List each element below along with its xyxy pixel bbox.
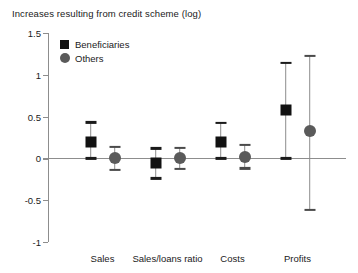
error-bar-cap xyxy=(239,144,250,146)
x-tick-label: Profits xyxy=(284,253,311,264)
y-tick-mark xyxy=(43,242,48,243)
error-bar-cap xyxy=(85,121,96,123)
marker-others[interactable] xyxy=(239,151,251,163)
x-tick-label: Sales/loans ratio xyxy=(132,253,202,264)
marker-others[interactable] xyxy=(174,152,186,164)
error-bar-cap xyxy=(304,54,315,56)
y-tick-mark xyxy=(43,200,48,201)
x-tick-label: Costs xyxy=(220,253,244,264)
error-bar-cap xyxy=(174,168,185,170)
error-bar-cap xyxy=(109,146,120,148)
error-bar-cap xyxy=(280,157,291,159)
error-bar-cap xyxy=(150,147,161,149)
y-tick-label: 0 xyxy=(36,153,41,164)
marker-beneficiaries[interactable] xyxy=(150,158,161,169)
y-tick-label: -1 xyxy=(33,237,41,248)
y-tick-mark xyxy=(43,117,48,118)
error-bar-cap xyxy=(215,122,226,124)
error-bar-cap xyxy=(304,209,315,211)
error-bar-cap xyxy=(150,177,161,179)
error-bar-cap xyxy=(215,157,226,159)
error-bar-cap xyxy=(280,62,291,64)
y-tick-label: 1.5 xyxy=(28,28,41,39)
error-bar-cap xyxy=(239,167,250,169)
y-tick-mark xyxy=(43,33,48,34)
marker-beneficiaries[interactable] xyxy=(215,136,226,147)
x-tick-label: Sales xyxy=(91,253,115,264)
y-tick-label: -0.5 xyxy=(25,195,41,206)
chart-container: Increases resulting from credit scheme (… xyxy=(0,0,358,273)
error-bar-cap xyxy=(109,169,120,171)
y-tick-mark xyxy=(43,158,48,159)
y-tick-label: 1 xyxy=(36,69,41,80)
marker-beneficiaries[interactable] xyxy=(280,104,291,115)
plot-area: 1.510.50-0.5-1 SalesSales/loans ratioCos… xyxy=(48,33,346,242)
error-bar-cap xyxy=(174,146,185,148)
chart-title: Increases resulting from credit scheme (… xyxy=(12,8,201,19)
y-tick-label: 0.5 xyxy=(28,111,41,122)
marker-beneficiaries[interactable] xyxy=(85,136,96,147)
marker-others[interactable] xyxy=(109,152,121,164)
marker-others[interactable] xyxy=(304,125,316,137)
error-bar-cap xyxy=(85,157,96,159)
y-tick-mark xyxy=(43,75,48,76)
y-axis-line xyxy=(48,33,49,242)
